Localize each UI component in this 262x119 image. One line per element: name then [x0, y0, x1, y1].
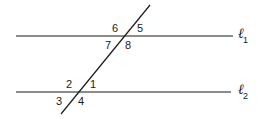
angle-7-label: 7	[105, 39, 111, 51]
angle-5-label: 5	[137, 22, 143, 34]
angle-8-label: 8	[125, 39, 131, 51]
angle-3-label: 3	[56, 95, 62, 107]
angle-4-label: 4	[78, 95, 84, 107]
angle-1-label: 1	[90, 78, 96, 90]
line-l1-subscript: 1	[243, 35, 248, 45]
angle-6-label: 6	[112, 22, 118, 34]
line-l2-subscript: 2	[243, 91, 248, 101]
angle-2-label: 2	[66, 78, 72, 90]
parallel-lines-diagram: 6 5 7 8 2 1 3 4 ℓ 1 ℓ 2	[0, 0, 262, 119]
